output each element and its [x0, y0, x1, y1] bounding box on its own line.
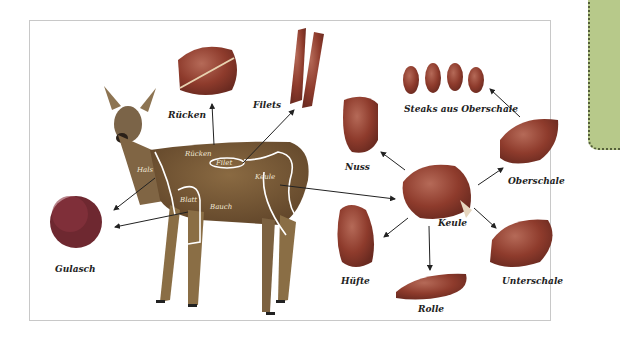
region-label-hals: Hals — [137, 166, 153, 174]
cut-label-gulasch: Gulasch — [55, 264, 96, 274]
cut-label-nuss: Nuss — [345, 162, 370, 172]
cut-label-steaks: Steaks aus Oberschale — [404, 104, 518, 114]
region-label-ruecken: Rücken — [185, 150, 212, 158]
region-label-keule: Keule — [255, 173, 275, 181]
cut-label-huefte: Hüfte — [341, 276, 370, 286]
cut-label-rolle: Rolle — [418, 304, 444, 314]
deer-illustration — [104, 86, 309, 315]
cut-label-unterschale: Unterschale — [502, 276, 563, 286]
cut-label-ruecken: Rücken — [168, 110, 206, 120]
region-label-bauch: Bauch — [210, 203, 232, 211]
cut-label-filets: Filets — [253, 100, 281, 110]
cut-label-keule: Keule — [438, 218, 467, 228]
region-label-blatt: Blatt — [180, 196, 197, 204]
cut-label-oberschale: Oberschale — [508, 176, 565, 186]
region-label-filet: Filet — [216, 159, 232, 167]
